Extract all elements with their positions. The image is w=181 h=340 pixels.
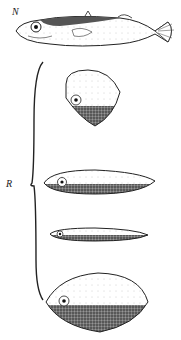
red-belly-model-elongated: [40, 166, 160, 198]
red-belly-model-large: [44, 270, 154, 337]
naturalistic-fish-model: [16, 11, 174, 46]
r-group-bracket: [31, 62, 43, 300]
stickleback-models-illustration: [0, 0, 181, 340]
red-belly-model-rhomboid: [60, 60, 130, 136]
red-belly-model-thin: [48, 226, 152, 244]
